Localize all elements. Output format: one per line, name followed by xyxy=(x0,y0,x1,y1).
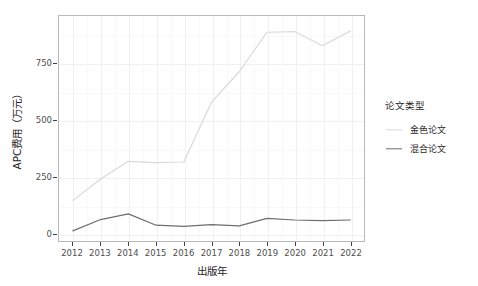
legend-item[interactable]: 金色论文 xyxy=(385,121,477,138)
x-axis-tick-label: 2022 xyxy=(340,248,362,258)
series-layer xyxy=(59,16,364,241)
x-axis-tick-mark xyxy=(239,242,240,246)
legend: 论文类型 金色论文混合论文 xyxy=(385,98,477,159)
x-axis-tick-mark xyxy=(72,242,73,246)
y-axis-title-label: APC费用（万元） xyxy=(9,88,24,169)
x-axis-tick-label: 2014 xyxy=(117,248,139,258)
x-axis-tick-mark xyxy=(128,242,129,246)
legend-key-line-icon xyxy=(385,122,403,138)
y-axis-tick-label: 500 xyxy=(26,115,52,125)
x-axis-tick-mark xyxy=(184,242,185,246)
plot-panel xyxy=(58,15,365,242)
y-axis-tick-labels: 0250500750 xyxy=(26,0,52,286)
series-line xyxy=(73,214,350,231)
x-axis-tick-label: 2012 xyxy=(61,248,83,258)
series-line xyxy=(73,31,350,200)
y-axis-tick-label: 750 xyxy=(26,58,52,68)
x-axis-tick-mark xyxy=(156,242,157,246)
y-axis-tick-mark xyxy=(53,120,57,121)
legend-title: 论文类型 xyxy=(385,98,477,112)
y-axis-tick-mark xyxy=(53,63,57,64)
x-axis-tick-mark xyxy=(351,242,352,246)
x-axis-tick-mark xyxy=(323,242,324,246)
x-axis-tick-mark xyxy=(212,242,213,246)
chart-container: APC费用（万元） 0250500750 2012201320142015201… xyxy=(0,0,478,286)
x-axis-tick-label: 2017 xyxy=(201,248,223,258)
legend-key-line-icon xyxy=(385,141,403,157)
x-axis-tick-label: 2021 xyxy=(312,248,334,258)
x-axis-tick-label: 2016 xyxy=(173,248,195,258)
x-axis-tick-label: 2018 xyxy=(229,248,251,258)
y-axis-tick-label: 0 xyxy=(26,229,52,239)
legend-key-stroke xyxy=(386,129,402,130)
legend-items: 金色论文混合论文 xyxy=(385,121,477,157)
legend-item-label: 混合论文 xyxy=(410,142,446,155)
x-axis-tick-label: 2015 xyxy=(145,248,167,258)
legend-key-stroke xyxy=(386,148,402,149)
x-axis-tick-mark xyxy=(267,242,268,246)
legend-item[interactable]: 混合论文 xyxy=(385,140,477,157)
x-axis-tick-mark xyxy=(100,242,101,246)
x-axis-tick-mark xyxy=(295,242,296,246)
x-axis-tick-label: 2013 xyxy=(89,248,111,258)
x-axis-tick-label: 2020 xyxy=(284,248,306,258)
x-axis-title: 出版年 xyxy=(58,263,365,278)
y-axis-tick-mark xyxy=(53,177,57,178)
y-axis-tick-mark xyxy=(53,234,57,235)
y-axis-title: APC费用（万元） xyxy=(8,15,24,242)
y-axis-tick-label: 250 xyxy=(26,172,52,182)
legend-item-label: 金色论文 xyxy=(410,123,446,136)
x-axis-tick-label: 2019 xyxy=(256,248,278,258)
